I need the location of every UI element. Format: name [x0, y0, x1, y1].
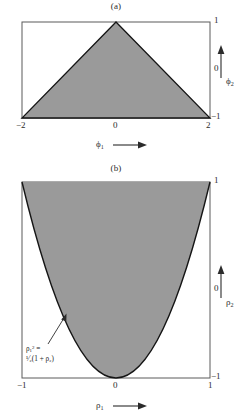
panel-b-y-axis-title-sub: 2 [231, 302, 234, 308]
annot-equals: = [34, 345, 40, 353]
panel-b-label: (b) [86, 163, 146, 173]
panel-a-y-axis-title-sub: 2 [231, 81, 234, 87]
panel-b-y-axis-title: ρ2 [226, 297, 234, 308]
panel-b-ytick-mid: 0 [214, 283, 219, 293]
panel-a-xtick-right: 2 [206, 120, 211, 130]
panel-a-xtick-left: −2 [16, 120, 26, 130]
panel-b-ytick-top: 1 [214, 175, 219, 185]
panel-b-xtick-right: 1 [208, 380, 213, 390]
panel-a-xtick-mid: 0 [113, 120, 118, 130]
panel-b-xtick-mid: 0 [113, 380, 118, 390]
panel-b-xtick-left: −1 [17, 380, 27, 390]
figure-container: (a) 1 0 −1 −2 0 2 ϕ2 ϕ1 [0, 0, 248, 417]
panel-a-x-axis-title: ϕ1 [96, 139, 104, 150]
panel-b-curve-annotation-line1: ρ12 = [26, 343, 54, 355]
panel-a-y-axis-title: ϕ2 [226, 76, 234, 87]
panel-b-curve-annotation: ρ12 = ¹⁄₂(1 + ρ₂) [26, 343, 54, 364]
panel-a-ytick-mid: 0 [214, 63, 219, 73]
panel-b-y-axis-arrow-head [218, 265, 225, 274]
panel-a-ytick-bottom: −1 [211, 111, 221, 121]
panel-b-x-axis-title-sub: 1 [101, 405, 104, 411]
panel-a-x-axis-arrow-head [138, 142, 147, 149]
panel-a-ytick-top: 1 [214, 15, 219, 25]
panel-b-curve-annotation-line2: ¹⁄₂(1 + ρ₂) [26, 355, 54, 364]
panel-b-x-axis-title: ρ1 [96, 400, 104, 411]
panel-a-y-axis-arrow-head [218, 45, 225, 54]
panel-a-x-axis-title-sub: 1 [101, 144, 104, 150]
panel-b-x-axis-arrow-head [138, 403, 147, 410]
